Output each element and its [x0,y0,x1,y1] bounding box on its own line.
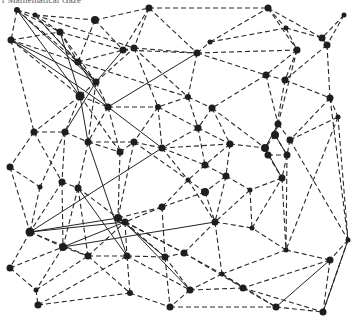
dashed-edge [282,178,286,250]
dashed-edge [127,256,190,290]
dashed-edge [10,167,40,187]
dashed-edge [63,188,78,247]
graph-node [31,129,38,136]
graph-node [282,77,289,84]
graph-node [124,253,131,260]
graph-node [117,149,124,156]
dashed-edge [338,117,348,240]
dashed-edge [290,140,348,240]
dashed-edge [198,128,205,165]
dashed-edge [158,97,188,107]
graph-node [85,139,92,146]
graph-node [162,254,169,261]
dashed-edge [286,28,322,38]
dashed-edge [190,274,222,290]
graph-node [227,141,234,148]
graph-node [240,285,247,292]
graph-node [35,302,42,309]
graph-node [62,129,69,136]
graph-node [336,115,341,120]
graph-node [8,37,15,44]
graph-node [91,16,99,24]
graph-node [202,162,209,169]
dashed-edge [197,53,266,75]
graph-node [59,179,66,186]
dashed-edge [222,250,286,274]
graph-node [85,253,92,260]
dashed-edge [162,148,188,180]
graph-node [250,226,255,231]
dashed-edge [62,182,63,247]
graph-node [122,219,129,226]
dashed-edge [290,98,330,140]
graph-node [33,13,38,18]
dashed-edge [188,180,215,222]
dashed-edge [226,176,250,190]
graph-node [38,185,43,190]
solid-edges [11,10,348,312]
graph-node [327,257,334,264]
dashed-edge [286,250,330,260]
graph-node [327,95,334,102]
dashed-edge [212,108,230,144]
graph-node [57,29,64,36]
dashed-edge [30,232,63,247]
dashed-edge [330,98,348,240]
dashed-edge [268,8,297,50]
graph-node [342,13,347,18]
dashed-edge [78,142,88,188]
dashed-edge [268,8,322,38]
dashed-edge [162,180,188,207]
dashed-edge [62,132,65,182]
dashed-edge [188,53,197,97]
dashed-edge [278,50,297,124]
dashed-edge [127,256,130,293]
graph-node [75,59,82,66]
dashed-edge [243,288,323,312]
dashed-edge [165,257,190,290]
dashed-edge [60,32,96,82]
dashed-edge [327,45,330,98]
network-graph [0,0,352,323]
graph-node [279,175,286,182]
graph-node [76,92,85,101]
graph-node [167,304,174,311]
dashed-edge [162,192,205,207]
graph-node [105,104,112,111]
dashed-edge [285,80,330,98]
graph-node [114,214,122,222]
graph-node [59,243,67,251]
graph-node [273,304,280,311]
graph-node [284,26,289,31]
graph-node [120,47,127,54]
dashed-edge [162,128,198,148]
dashed-edge [215,222,252,228]
graph-node [275,121,282,128]
dashed-edge [38,293,130,305]
dashed-edge [252,228,286,250]
dashed-edge [96,48,134,82]
dashed-edge [10,232,30,268]
solid-edge [11,40,96,82]
dashed-edge [134,48,188,97]
graph-node [209,105,216,112]
graph-node [263,72,270,79]
graph-node [34,288,39,293]
dashed-edge [134,48,158,107]
dashed-edge [286,155,287,250]
graph-node [284,152,291,159]
graph-node [146,5,153,12]
graph-node [346,238,351,243]
dashed-edge [10,167,30,232]
graph-node [261,144,269,152]
graph-node [14,7,20,13]
graph-node [265,152,272,159]
dashed-edge [127,256,165,257]
dashed-edge [158,107,162,148]
dashed-edge [149,8,197,53]
graph-node [220,272,225,277]
dashed-edge [330,240,348,260]
graph-node [75,185,82,192]
dashed-edge [212,75,266,108]
dashed-edge [322,15,344,38]
